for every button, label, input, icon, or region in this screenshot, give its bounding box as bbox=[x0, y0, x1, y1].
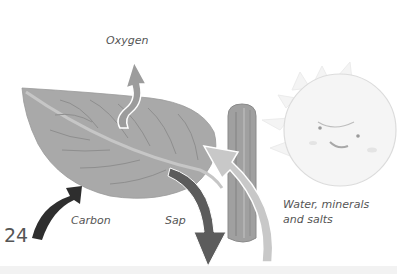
sap-label: Sap bbox=[165, 214, 186, 227]
diagram-illustration bbox=[0, 0, 397, 274]
oxygen-label: Oxygen bbox=[106, 34, 148, 47]
photosynthesis-diagram: Oxygen Carbon Sap Water, minerals and sa… bbox=[0, 0, 397, 274]
carbon-arrow bbox=[32, 186, 82, 240]
sun-icon bbox=[262, 62, 396, 186]
carbon-label: Carbon bbox=[71, 214, 111, 227]
water-minerals-label-line1: Water, minerals bbox=[283, 198, 369, 211]
page-bottom-edge bbox=[0, 266, 397, 274]
page-number: 24 bbox=[4, 224, 28, 246]
water-minerals-label-line2: and salts bbox=[283, 213, 333, 226]
